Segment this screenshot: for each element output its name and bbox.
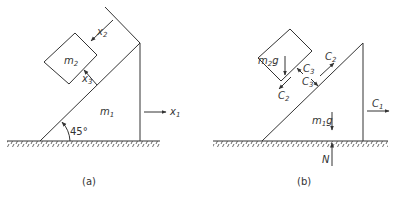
label-m2g: m2g bbox=[258, 55, 279, 68]
label-angle: 45° bbox=[70, 126, 88, 137]
caption-a: (a) bbox=[82, 176, 96, 187]
label-x1: x1 bbox=[169, 106, 180, 119]
label-c3-wedge: C3 bbox=[302, 76, 313, 89]
figure-b-labels: m2g C3 C2 C2 C3 m1g C1 N (b) bbox=[258, 51, 383, 187]
c2-wedge-arrow bbox=[320, 63, 334, 76]
label-x2: x2 bbox=[96, 26, 108, 39]
label-c2-block: C2 bbox=[278, 90, 290, 103]
caption-b: (b) bbox=[297, 176, 311, 187]
ground-hatch-b bbox=[213, 141, 388, 147]
label-m1-a: m1 bbox=[100, 106, 114, 119]
wedge-a bbox=[40, 43, 140, 141]
ground-hatch-a bbox=[7, 141, 160, 147]
dimension-line-a bbox=[105, 7, 140, 43]
label-m2-a: m2 bbox=[64, 55, 79, 68]
label-c3-block: C3 bbox=[303, 63, 314, 76]
angle-arc bbox=[62, 122, 70, 141]
label-m1g: m1g bbox=[312, 115, 333, 128]
c2-block-arrow bbox=[279, 77, 291, 89]
diagram-canvas: m2 m1 45° x1 x2 x3 (a) m2g C3 C2 C2 C3 bbox=[0, 0, 406, 199]
figure-b bbox=[213, 29, 389, 166]
label-normal-force: N bbox=[322, 154, 330, 165]
label-c1: C1 bbox=[372, 98, 383, 111]
figure-a-labels: m2 m1 45° x1 x2 x3 (a) bbox=[64, 26, 180, 187]
label-x3: x3 bbox=[81, 73, 92, 86]
label-c2-wedge: C2 bbox=[325, 51, 337, 64]
